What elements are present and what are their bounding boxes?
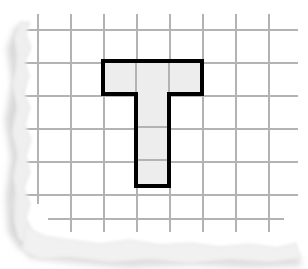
grid-paper-figure — [0, 0, 308, 269]
figure-container — [0, 0, 308, 269]
